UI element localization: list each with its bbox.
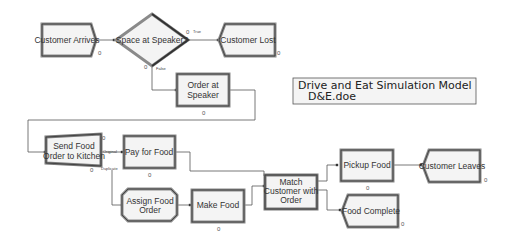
module-label-line1: Order at — [187, 80, 219, 90]
module-label-line1: Send Food — [53, 141, 95, 151]
module-label: Make Food — [197, 200, 240, 210]
title-box: Drive and Eat Simulation Model D&E.doe — [293, 78, 476, 104]
module-label: Customer Arrives — [34, 35, 99, 45]
original-label: Original — [103, 149, 117, 154]
module-make-food[interactable]: Make Food 0 — [192, 190, 244, 232]
counter: 0 — [366, 185, 370, 191]
module-send-food-order[interactable]: Send Food Order to Kitchen 0 Original Du… — [43, 134, 118, 173]
counter: 0 — [98, 50, 102, 56]
module-customer-leaves[interactable]: Customer Leaves 0 — [419, 150, 488, 183]
true-label: True — [193, 29, 202, 34]
connectors — [28, 40, 421, 210]
module-label-line2: Speaker — [187, 90, 219, 100]
counter-bottom: 0 — [90, 167, 94, 173]
module-order-at-speaker[interactable]: Order at Speaker 0 — [177, 74, 229, 116]
false-label: False — [156, 66, 167, 71]
module-customer-arrives[interactable]: Customer Arrives 0 — [34, 24, 102, 56]
module-match-customer[interactable]: Match Customer with Order — [264, 175, 319, 209]
module-food-complete[interactable]: Food Complete 0 — [342, 195, 405, 227]
counter: 0 — [484, 177, 488, 183]
module-label-line2: Order to Kitchen — [43, 151, 105, 161]
module-label: Customer Leaves — [419, 161, 486, 171]
counter: 0 — [148, 172, 152, 178]
module-label: Pickup Food — [343, 160, 391, 170]
counter: 0 — [401, 221, 405, 227]
module-space-at-speaker[interactable]: Space at Speaker? 0 True 0 False — [116, 14, 202, 71]
module-assign-food-order[interactable]: Assign Food Order — [122, 189, 177, 221]
title-line2: D&E.doe — [308, 90, 356, 103]
counter-true: 0 — [186, 29, 190, 35]
flowchart-canvas: Customer Arrives 0 Space at Speaker? 0 T… — [0, 0, 505, 245]
module-label-line2: Order — [139, 205, 161, 215]
module-label: Food Complete — [342, 206, 400, 216]
module-label-line3: Order — [280, 195, 302, 205]
module-customer-lost[interactable]: Customer Lost 0 — [219, 24, 281, 56]
module-label: Space at Speaker? — [116, 35, 189, 45]
module-label: Customer Lost — [220, 35, 276, 45]
counter-false: 0 — [144, 64, 148, 70]
counter: 0 — [277, 50, 281, 56]
counter: 0 — [217, 226, 221, 232]
module-label: Pay for Food — [125, 147, 174, 157]
duplicate-label: Duplicate — [101, 166, 118, 171]
module-pay-for-food[interactable]: Pay for Food 0 — [124, 136, 175, 178]
counter-top: 0 — [102, 135, 106, 141]
counter: 0 — [202, 110, 206, 116]
module-pickup-food[interactable]: Pickup Food 0 — [341, 150, 393, 191]
